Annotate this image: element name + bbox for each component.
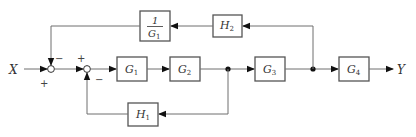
output-label-y: Y bbox=[397, 63, 406, 77]
summing-junction-1: − + bbox=[40, 53, 63, 89]
input-signal: X bbox=[8, 63, 47, 77]
block-g4: G4 bbox=[339, 57, 369, 81]
output-signal: Y bbox=[369, 63, 406, 77]
svg-text:1: 1 bbox=[152, 15, 158, 26]
block-g1: G1 bbox=[117, 57, 147, 81]
sum1-top-sign: − bbox=[55, 53, 63, 64]
feedback-loop-h1: H1 bbox=[87, 69, 228, 126]
sum1-bottom-sign: + bbox=[40, 78, 48, 89]
block-g2: G2 bbox=[170, 57, 200, 81]
block-g3: G3 bbox=[255, 57, 285, 81]
block-diagram: X − + + − G1 G2 G3 G4 bbox=[0, 0, 416, 137]
block-inverse-g1: 1 G1 bbox=[51, 11, 170, 65]
sum2-bottom-sign: − bbox=[95, 74, 103, 85]
input-label-x: X bbox=[8, 63, 18, 77]
sum2-top-sign: + bbox=[77, 53, 85, 64]
